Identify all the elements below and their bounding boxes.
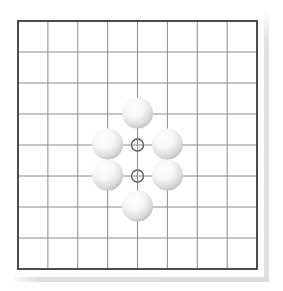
white-stone-icon[interactable] [152, 129, 183, 160]
go-board [0, 0, 283, 291]
board-grid[interactable] [0, 0, 283, 291]
white-stone-icon[interactable] [152, 160, 183, 191]
white-stone-icon[interactable] [92, 129, 123, 160]
white-stone-icon[interactable] [122, 98, 153, 129]
white-stone-icon[interactable] [92, 160, 123, 191]
white-stone-icon[interactable] [122, 191, 153, 222]
